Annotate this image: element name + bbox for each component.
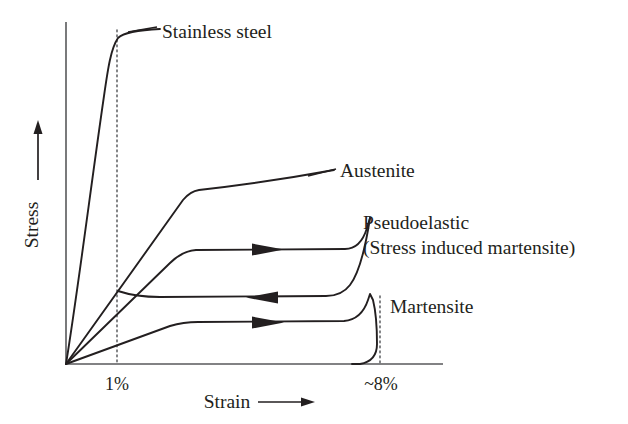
stress-strain-figure: Stainless steel Austenite Pseudoelastic … — [0, 0, 628, 424]
tick-label-1-percent: 1% — [105, 374, 129, 394]
curve-pseudoelastic-unloading — [118, 218, 370, 297]
stress-strain-chart: Stainless steel Austenite Pseudoelastic … — [0, 0, 628, 424]
curve-pseudoelastic-loading — [66, 218, 370, 364]
y-axis-title: Stress — [21, 202, 42, 249]
curve-martensite — [66, 294, 377, 364]
label-martensite: Martensite — [390, 296, 473, 317]
y-axis-title-group: Stress — [21, 120, 43, 248]
y-axis-title-arrow-head — [34, 120, 43, 134]
curve-austenite — [66, 170, 334, 364]
curves-group — [66, 29, 377, 364]
axes-group — [66, 22, 443, 364]
curve-stainless-steel — [66, 29, 160, 364]
x-axis-title-arrow-head — [301, 398, 315, 407]
label-austenite: Austenite — [340, 160, 415, 181]
arrow-right-upper-plateau — [252, 244, 284, 256]
guide-lines-group — [117, 30, 380, 364]
tick-labels-group: 1% ~8% — [105, 374, 398, 394]
label-pseudoelastic: Pseudoelastic — [363, 212, 469, 233]
label-stress-induced-martensite: (Stress induced martensite) — [363, 237, 575, 259]
tick-label-8-percent: ~8% — [364, 374, 398, 394]
direction-arrows-group — [246, 244, 284, 329]
x-axis-title-group: Strain — [204, 391, 315, 412]
leader-line-austenite — [308, 169, 336, 176]
arrow-right-martensite-plateau — [252, 317, 284, 329]
arrow-left-lower-plateau — [246, 292, 278, 304]
leader-lines-group — [128, 27, 336, 176]
x-axis-title: Strain — [204, 391, 251, 412]
label-stainless-steel: Stainless steel — [162, 21, 273, 42]
annotation-labels-group: Stainless steel Austenite Pseudoelastic … — [162, 21, 575, 317]
